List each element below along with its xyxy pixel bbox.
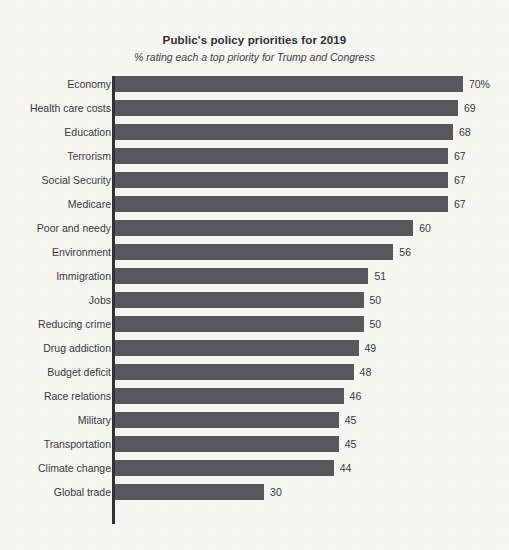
bar[interactable] (115, 196, 448, 212)
bar-value-label: 68 (459, 124, 471, 140)
bar-track (115, 268, 368, 284)
value-axis-line (112, 76, 115, 524)
bar-chart-figure: Public's policy priorities for 2019 % ra… (0, 0, 509, 550)
bar[interactable] (115, 316, 364, 332)
bar-row: Immigration51 (0, 268, 509, 292)
category-label: Medicare (0, 196, 111, 212)
bar[interactable] (115, 244, 393, 260)
category-label: Education (0, 124, 111, 140)
bar-track (115, 244, 393, 260)
bar[interactable] (115, 148, 448, 164)
bar-track (115, 292, 364, 308)
bar-value-label: 67 (454, 148, 466, 164)
category-label: Jobs (0, 292, 111, 308)
bar-row: Environment56 (0, 244, 509, 268)
category-label: Transportation (0, 436, 111, 452)
bar-row: Poor and needy60 (0, 220, 509, 244)
bar[interactable] (115, 172, 448, 188)
bar-track (115, 100, 458, 116)
category-label: Social Security (0, 172, 111, 188)
bar-value-label: 30 (270, 484, 282, 500)
bar-track (115, 364, 354, 380)
bar-track (115, 388, 344, 404)
chart-header: Public's policy priorities for 2019 % ra… (0, 33, 509, 64)
category-label: Race relations (0, 388, 111, 404)
chart-subtitle: % rating each a top priority for Trump a… (0, 50, 509, 64)
bar-track (115, 340, 359, 356)
bar[interactable] (115, 124, 453, 140)
bar-value-label: 49 (365, 340, 377, 356)
category-label: Drug addiction (0, 340, 111, 356)
bar-value-label: 44 (340, 460, 352, 476)
bar[interactable] (115, 436, 339, 452)
bar[interactable] (115, 364, 354, 380)
bar-track (115, 436, 339, 452)
bar[interactable] (115, 220, 413, 236)
plot-area: Economy70%Health care costs69Education68… (0, 76, 509, 528)
bar-track (115, 196, 448, 212)
category-label: Reducing crime (0, 316, 111, 332)
bar-value-label: 46 (350, 388, 362, 404)
category-label: Terrorism (0, 148, 111, 164)
bar-value-label: 56 (399, 244, 411, 260)
chart-title: Public's policy priorities for 2019 (0, 33, 509, 47)
bar[interactable] (115, 460, 334, 476)
bar-value-label: 45 (345, 436, 357, 452)
bar-row: Terrorism67 (0, 148, 509, 172)
bar[interactable] (115, 388, 344, 404)
bar-track (115, 124, 453, 140)
category-label: Global trade (0, 484, 111, 500)
bar-row: Race relations46 (0, 388, 509, 412)
bar-row: Budget deficit48 (0, 364, 509, 388)
bar-row: Global trade30 (0, 484, 509, 508)
bar-row: Reducing crime50 (0, 316, 509, 340)
category-label: Health care costs (0, 100, 111, 116)
bar[interactable] (115, 340, 359, 356)
bar-value-label: 70% (469, 76, 490, 92)
bar-value-label: 48 (360, 364, 372, 380)
bar-row: Health care costs69 (0, 100, 509, 124)
bar[interactable] (115, 484, 264, 500)
category-label: Economy (0, 76, 111, 92)
bar-value-label: 51 (374, 268, 386, 284)
bar-row: Transportation45 (0, 436, 509, 460)
bar-track (115, 484, 264, 500)
category-label: Immigration (0, 268, 111, 284)
bar-row: Education68 (0, 124, 509, 148)
bar-value-label: 60 (419, 220, 431, 236)
bar-track (115, 172, 448, 188)
bar-value-label: 45 (345, 412, 357, 428)
bar-track (115, 76, 463, 92)
bar[interactable] (115, 292, 364, 308)
bar-row: Jobs50 (0, 292, 509, 316)
category-label: Climate change (0, 460, 111, 476)
bar[interactable] (115, 412, 339, 428)
category-label: Budget deficit (0, 364, 111, 380)
bar-row: Social Security67 (0, 172, 509, 196)
bar-track (115, 412, 339, 428)
bar-value-label: 67 (454, 196, 466, 212)
bar[interactable] (115, 268, 368, 284)
bar-value-label: 67 (454, 172, 466, 188)
bar-row: Economy70% (0, 76, 509, 100)
bar-value-label: 69 (464, 100, 476, 116)
category-label: Poor and needy (0, 220, 111, 236)
bar-row: Medicare67 (0, 196, 509, 220)
bar-track (115, 148, 448, 164)
bar-value-label: 50 (370, 316, 382, 332)
bar-row: Climate change44 (0, 460, 509, 484)
bar-track (115, 220, 413, 236)
bar-track (115, 460, 334, 476)
category-label: Environment (0, 244, 111, 260)
bar-row: Drug addiction49 (0, 340, 509, 364)
category-label: Military (0, 412, 111, 428)
bar-track (115, 316, 364, 332)
bar-row: Military45 (0, 412, 509, 436)
bar-value-label: 50 (370, 292, 382, 308)
bar[interactable] (115, 76, 463, 92)
bar[interactable] (115, 100, 458, 116)
